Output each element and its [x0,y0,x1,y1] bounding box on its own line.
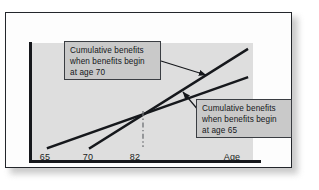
x-tick-label-70: 70 [71,152,105,162]
annotation-age-65-line-3: at age 65 [202,125,286,136]
annotation-age-70-line-2: when benefits begin [70,56,155,67]
annotation-age-70-line-1: Cumulative benefits [70,45,155,56]
x-axis-title: Age [215,152,249,162]
annotation-age-65-line-2: when benefits begin [202,114,286,125]
annotation-age-65-line-1: Cumulative benefits [202,103,286,114]
annotation-age-70-line-3: at age 70 [70,67,155,78]
x-tick-label-82: 82 [118,152,152,162]
annotation-callout-age-70[interactable]: Cumulative benefits when benefits begin … [64,41,161,80]
figure-stage: Cumulative benefits when benefits begin … [0,0,319,190]
leader-line-age-70 [161,61,206,75]
x-tick-label-65: 65 [28,152,62,162]
annotation-callout-age-65[interactable]: Cumulative benefits when benefits begin … [196,99,292,138]
